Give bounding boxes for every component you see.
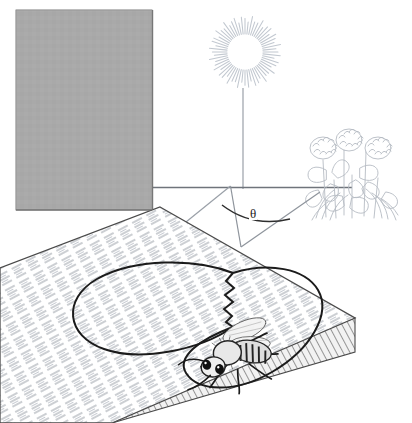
figure-canvas: θ xyxy=(0,0,412,423)
clover-flowers-icon xyxy=(306,129,398,220)
clover-leaf xyxy=(349,165,380,199)
clover-blossom xyxy=(336,129,363,151)
reference-ray-left xyxy=(186,186,231,222)
clover-blossom xyxy=(310,137,337,159)
wall-overlap-mask xyxy=(16,10,152,210)
clover-blossom xyxy=(365,137,392,159)
diagram-svg xyxy=(0,0,412,423)
comb-top-surface xyxy=(0,207,355,423)
sun-icon xyxy=(209,17,280,88)
angle-theta-label: θ xyxy=(249,207,257,220)
ray-to-sun xyxy=(231,186,242,247)
